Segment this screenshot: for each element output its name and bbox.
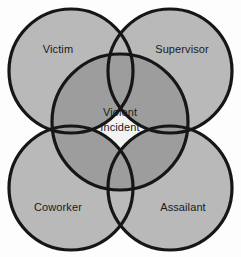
label-assailant: Assailant <box>160 201 206 213</box>
venn-diagram-svg: Victim Supervisor Coworker Assailant Vio… <box>0 0 241 257</box>
label-coworker: Coworker <box>34 201 82 213</box>
label-victim: Victim <box>43 43 73 55</box>
label-violent-incident-line2: Incident <box>100 121 139 133</box>
label-violent-incident-line1: Violent <box>103 106 137 118</box>
label-supervisor: Supervisor <box>155 43 209 55</box>
venn-diagram-container: Victim Supervisor Coworker Assailant Vio… <box>0 0 241 257</box>
